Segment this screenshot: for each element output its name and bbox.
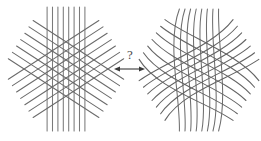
question-mark-label: ? — [120, 48, 140, 62]
line-grid-figure — [0, 0, 261, 141]
figure-container: ? — [0, 0, 261, 141]
